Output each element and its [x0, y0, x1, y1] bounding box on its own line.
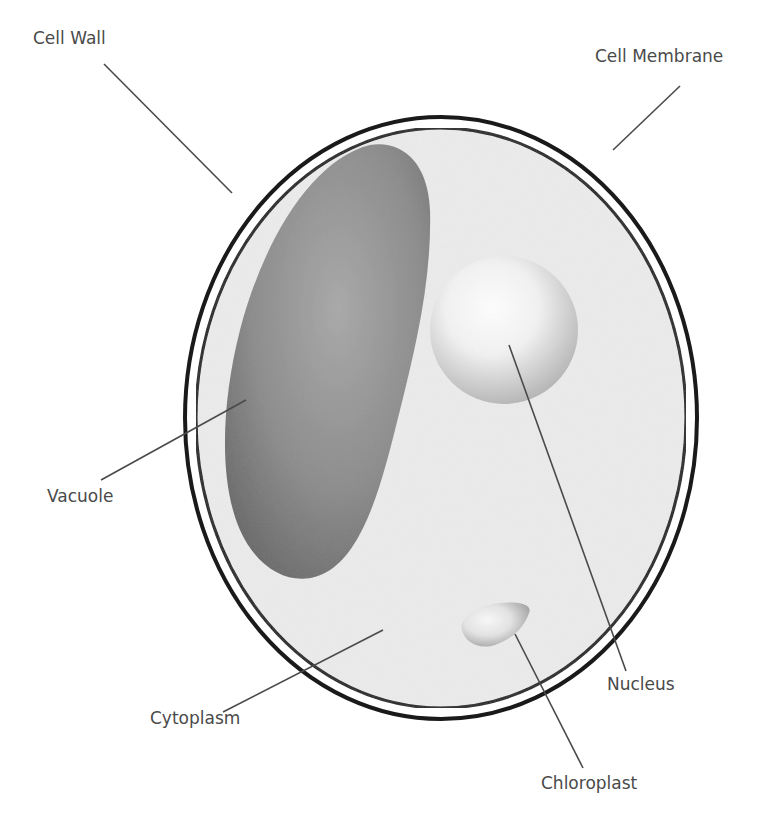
label-chloroplast: Chloroplast	[541, 775, 637, 792]
nucleus-shape	[430, 256, 578, 404]
leader-line-cell-wall	[104, 64, 232, 193]
label-cytoplasm: Cytoplasm	[150, 710, 240, 727]
leader-line-cell-membrane	[613, 86, 680, 150]
label-cell-wall: Cell Wall	[33, 30, 106, 47]
label-vacuole: Vacuole	[47, 488, 113, 505]
plant-cell-diagram	[0, 0, 782, 834]
label-cell-membrane: Cell Membrane	[595, 48, 723, 65]
label-nucleus: Nucleus	[607, 676, 675, 693]
